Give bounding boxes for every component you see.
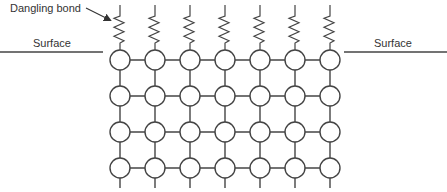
- atom: [145, 122, 165, 142]
- atom: [285, 158, 305, 178]
- atom: [320, 158, 340, 178]
- dangling-bond-springs: [114, 5, 334, 50]
- atom: [250, 50, 270, 70]
- atom: [250, 86, 270, 106]
- atom: [145, 50, 165, 70]
- atom: [180, 122, 200, 142]
- atom: [215, 86, 235, 106]
- atom: [285, 122, 305, 142]
- atom: [320, 122, 340, 142]
- dangling-bond-spring: [114, 5, 124, 50]
- atom: [180, 50, 200, 70]
- dangling-bond-spring: [254, 5, 264, 50]
- crystal-surface-diagram: [0, 0, 447, 192]
- atom: [250, 158, 270, 178]
- atom: [215, 158, 235, 178]
- dangling-bond-spring: [184, 5, 194, 50]
- atom: [215, 122, 235, 142]
- atom: [145, 86, 165, 106]
- atom: [320, 50, 340, 70]
- atom: [145, 158, 165, 178]
- atom: [110, 50, 130, 70]
- dangling-bond-spring: [219, 5, 229, 50]
- atom: [250, 122, 270, 142]
- atom: [320, 86, 340, 106]
- atom: [285, 50, 305, 70]
- atom: [285, 86, 305, 106]
- dangling-bond-arrow: [86, 8, 110, 20]
- atom: [180, 158, 200, 178]
- atom: [110, 158, 130, 178]
- dangling-bond-spring: [324, 5, 334, 50]
- atom: [180, 86, 200, 106]
- dangling-bond-spring: [289, 5, 299, 50]
- atom: [110, 122, 130, 142]
- dangling-bond-spring: [149, 5, 159, 50]
- atom: [215, 50, 235, 70]
- atom: [110, 86, 130, 106]
